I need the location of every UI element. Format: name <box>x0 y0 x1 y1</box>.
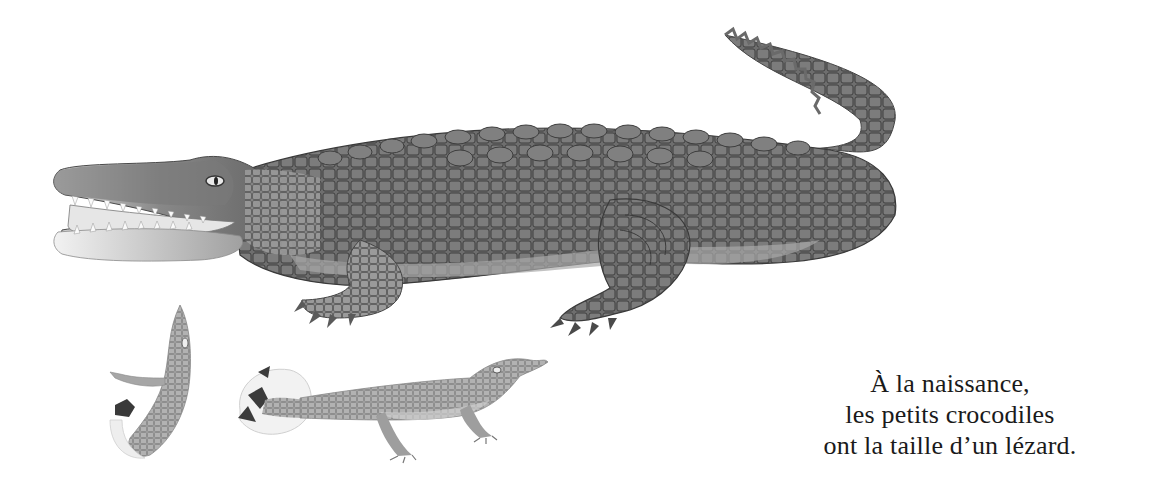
caption-line-2: les petits crocodiles <box>760 399 1140 430</box>
adult-crocodile <box>54 29 896 336</box>
hatchling-upright-arm <box>110 372 165 386</box>
hatchling-crawling-body <box>300 359 548 420</box>
caption: À la naissance, les petits crocodiles on… <box>760 368 1140 461</box>
crocodile-lower-jaw <box>54 229 243 261</box>
caption-line-3: ont la taille d’un lézard. <box>760 430 1140 461</box>
book-page: À la naissance, les petits crocodiles on… <box>0 0 1150 498</box>
hatchling-eye <box>493 367 501 373</box>
crocodile-tail <box>725 35 895 152</box>
caption-line-1: À la naissance, <box>760 368 1140 399</box>
eggshell-fragment <box>115 399 135 417</box>
hatchling-upright <box>110 305 191 458</box>
hatchling-crawling <box>238 359 548 463</box>
